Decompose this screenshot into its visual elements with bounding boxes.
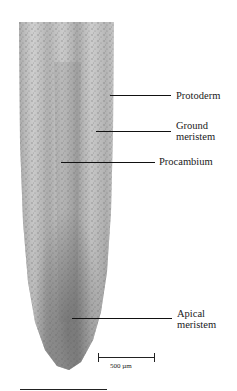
bottom-rule-divider: [20, 389, 107, 390]
procambium-label: Procambium: [159, 156, 213, 167]
procambium-leader-line: [61, 162, 155, 163]
apical-meristem-leader-line: [72, 318, 172, 319]
scale-bar-label: 500 µm: [110, 362, 132, 370]
ground-meristem-label-line2: meristem: [176, 131, 215, 142]
ground-meristem-label-line1: Ground: [176, 120, 208, 131]
scale-bar: [98, 353, 155, 362]
scale-bar-right-tick: [154, 353, 155, 362]
apical-meristem-label-line1: Apical: [177, 308, 205, 319]
root-tip-micrograph: [19, 22, 116, 372]
scale-bar-left-tick: [98, 353, 99, 362]
apical-meristem-label-line2: meristem: [177, 319, 216, 330]
protoderm-label: Protoderm: [176, 90, 220, 101]
protoderm-leader-line: [110, 95, 171, 96]
scale-bar-line: [98, 357, 155, 358]
ground-meristem-leader-line: [96, 131, 171, 132]
